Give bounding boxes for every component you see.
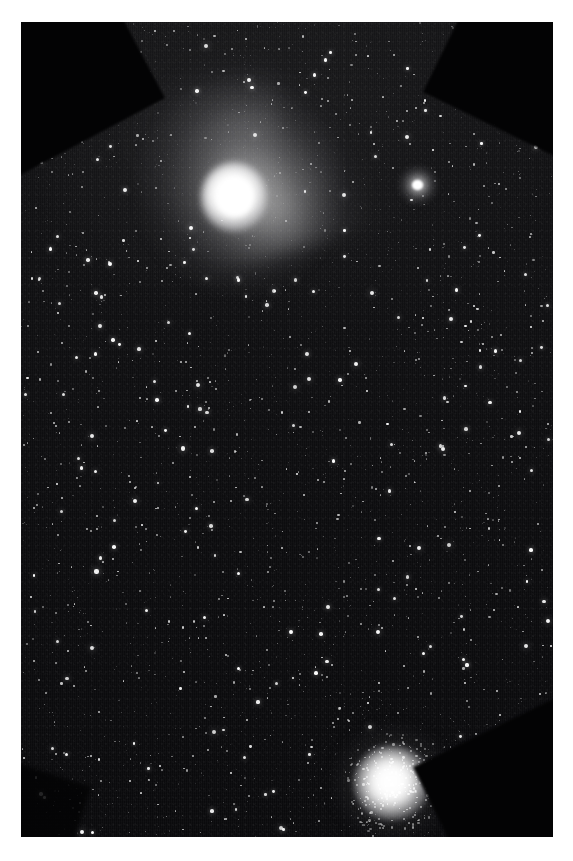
film-grain — [21, 22, 553, 837]
astrophoto-plate — [21, 22, 553, 837]
photo-frame — [0, 0, 573, 861]
